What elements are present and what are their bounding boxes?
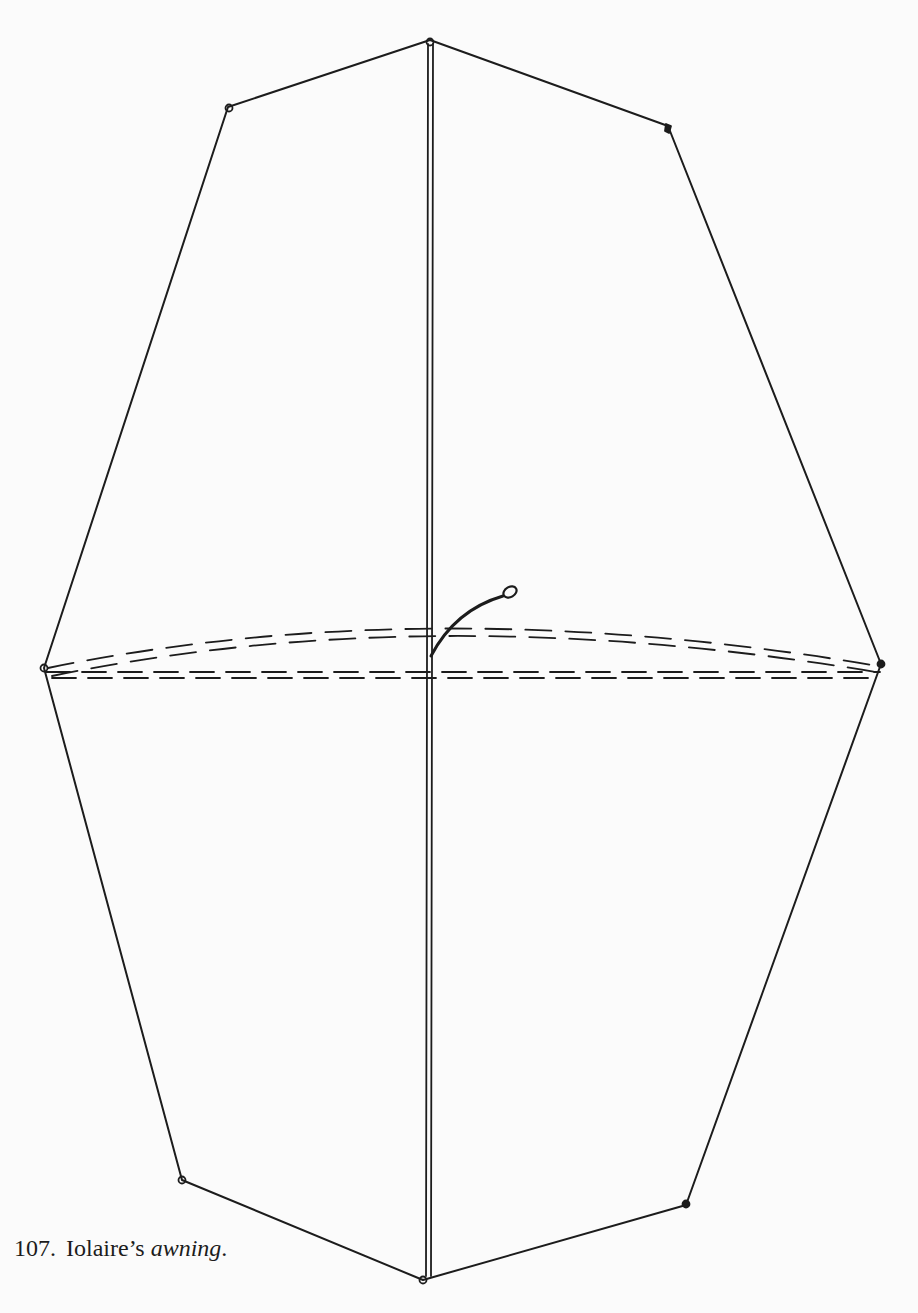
awning-outline [44, 40, 881, 1280]
dashed-fold-line-straight [46, 672, 880, 678]
eyelets [41, 39, 885, 1284]
ridge-pole [426, 44, 433, 1276]
eyelet-upper-left [226, 105, 233, 112]
eyelet-upper-right [665, 124, 671, 133]
awning-drawing [0, 0, 918, 1313]
figure-title: Iolaire’s [66, 1235, 145, 1261]
dashed-fold-line-curved [48, 628, 878, 676]
figure-title-end: . [221, 1235, 227, 1261]
eyelet-lower-right [683, 1201, 690, 1208]
eyelet-right [878, 661, 885, 668]
figure-caption: 107.Iolaire’s awning. [14, 1235, 227, 1262]
figure-number: 107. [14, 1235, 56, 1261]
awning-diagram [0, 0, 918, 1313]
figure-title-italic: awning [151, 1235, 222, 1261]
tie-line-with-loop [431, 584, 519, 656]
